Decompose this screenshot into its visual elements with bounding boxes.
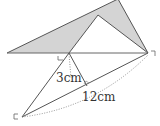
- label-base: 12cm: [82, 90, 116, 104]
- right-angle-mark-base: [58, 56, 63, 60]
- fold-edge-left: [22, 53, 69, 117]
- fold-edge-bottom: [22, 53, 148, 117]
- right-angle-mark-right: [151, 51, 155, 56]
- shaded-region: [7, 0, 148, 53]
- label-altitude: 3cm: [56, 71, 82, 85]
- geometry-diagram: 3cm 12cm: [0, 0, 160, 126]
- right-angle-mark-bottom: [14, 114, 18, 119]
